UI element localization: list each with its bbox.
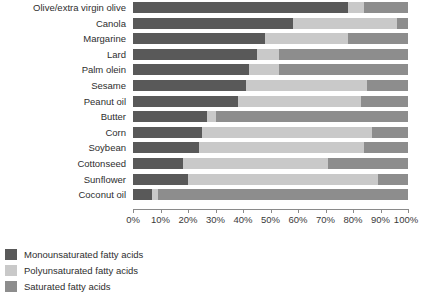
bar-rows: [133, 2, 408, 208]
legend-item[interactable]: Monounsaturated fatty acids: [5, 247, 305, 261]
category-label: Butter: [0, 111, 126, 122]
bar-segment: [265, 33, 348, 44]
category-label: Olive/extra virgin olive: [0, 2, 126, 13]
category-label: Canola: [0, 18, 126, 29]
category-axis-labels: Olive/extra virgin oliveCanolaMargarineL…: [0, 2, 130, 208]
bar-segment: [188, 174, 378, 185]
bar-segment: [133, 142, 199, 153]
bar-segment: [348, 33, 409, 44]
legend-swatch-icon: [5, 281, 17, 292]
bar-row: [133, 158, 408, 169]
legend-label: Saturated fatty acids: [24, 281, 111, 292]
category-label: Soybean: [0, 142, 126, 153]
bar-segment: [158, 189, 408, 200]
x-axis-tick: [298, 209, 299, 213]
bar-segment: [133, 33, 265, 44]
category-label: Peanut oil: [0, 96, 126, 107]
x-axis-tick-label: 20%: [178, 214, 197, 226]
bar-segment: [348, 2, 365, 13]
bar-segment: [364, 2, 408, 13]
bar-segment: [397, 18, 408, 29]
bar-row: [133, 142, 408, 153]
bar-row: [133, 189, 408, 200]
bar-row: [133, 111, 408, 122]
bar-segment: [133, 80, 246, 91]
plot-area: [133, 2, 408, 208]
x-axis-tick: [216, 209, 217, 213]
bar-segment: [238, 96, 362, 107]
x-axis-tick-label: 80%: [343, 214, 362, 226]
bar-segment: [257, 49, 279, 60]
bar-segment: [133, 189, 152, 200]
bar-segment: [133, 96, 238, 107]
bar-segment: [207, 111, 215, 122]
x-axis-tick-label: 10%: [151, 214, 170, 226]
x-axis-tick: [353, 209, 354, 213]
bar-row: [133, 127, 408, 138]
category-label: Sunflower: [0, 174, 126, 185]
legend-item[interactable]: Saturated fatty acids: [5, 279, 305, 293]
category-label: Palm olein: [0, 64, 126, 75]
bar-segment: [133, 127, 202, 138]
bar-segment: [133, 49, 257, 60]
bar-row: [133, 18, 408, 29]
legend-label: Polyunsaturated fatty acids: [24, 265, 138, 276]
x-axis-tick-label: 70%: [316, 214, 335, 226]
bar-segment: [364, 142, 408, 153]
bar-segment: [372, 127, 408, 138]
x-axis-tick-label: 60%: [288, 214, 307, 226]
bar-segment: [183, 158, 329, 169]
bar-row: [133, 33, 408, 44]
bar-segment: [367, 80, 408, 91]
legend-swatch-icon: [5, 249, 17, 260]
category-label: Sesame: [0, 80, 126, 91]
bar-segment: [133, 64, 249, 75]
legend-label: Monounsaturated fatty acids: [24, 249, 143, 260]
bar-segment: [202, 127, 373, 138]
legend-swatch-icon: [5, 265, 17, 276]
x-axis-tick: [133, 209, 134, 213]
x-axis-tick: [161, 209, 162, 213]
category-label: Corn: [0, 127, 126, 138]
x-axis-tick-label: 30%: [206, 214, 225, 226]
x-axis-tick: [271, 209, 272, 213]
legend-item[interactable]: Polyunsaturated fatty acids: [5, 263, 305, 277]
bar-row: [133, 49, 408, 60]
bar-segment: [279, 64, 408, 75]
bar-row: [133, 96, 408, 107]
bar-row: [133, 80, 408, 91]
x-axis-tick-label: 100%: [394, 214, 418, 226]
bar-row: [133, 64, 408, 75]
bar-segment: [293, 18, 398, 29]
bar-segment: [328, 158, 408, 169]
bar-segment: [133, 18, 293, 29]
x-axis-tick-label: 90%: [371, 214, 390, 226]
x-axis-tick: [243, 209, 244, 213]
category-label: Margarine: [0, 33, 126, 44]
x-axis-tick-label: 0%: [126, 214, 140, 226]
stacked-bar-chart: Olive/extra virgin oliveCanolaMargarineL…: [0, 0, 436, 299]
bar-segment: [199, 142, 364, 153]
x-axis-tick-label: 40%: [233, 214, 252, 226]
x-axis-tick-label: 50%: [261, 214, 280, 226]
bar-segment: [133, 174, 188, 185]
bar-segment: [361, 96, 408, 107]
x-axis-tick: [188, 209, 189, 213]
bar-segment: [249, 64, 279, 75]
bar-segment: [133, 158, 183, 169]
bar-segment: [216, 111, 409, 122]
bar-row: [133, 2, 408, 13]
x-axis-tick: [408, 209, 409, 213]
category-label: Cottonseed: [0, 158, 126, 169]
bar-segment: [133, 2, 348, 13]
x-axis-tick: [326, 209, 327, 213]
bar-segment: [246, 80, 367, 91]
bar-row: [133, 174, 408, 185]
chart-legend: Monounsaturated fatty acidsPolyunsaturat…: [5, 247, 305, 295]
bar-segment: [133, 111, 207, 122]
bar-segment: [378, 174, 408, 185]
bar-segment: [279, 49, 408, 60]
category-label: Coconut oil: [0, 189, 126, 200]
x-axis-tick: [381, 209, 382, 213]
category-label: Lard: [0, 49, 126, 60]
